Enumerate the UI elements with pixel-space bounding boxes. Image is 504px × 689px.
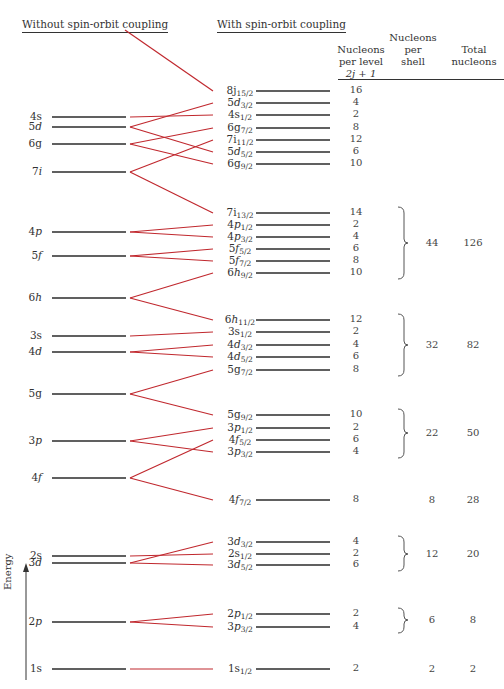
level-label-1s: 1s xyxy=(12,662,42,674)
connector-4f-7-2 xyxy=(130,478,213,500)
shell-brace xyxy=(398,409,408,458)
total-nucleons: 50 xyxy=(458,427,488,439)
per-level-count: 8 xyxy=(344,493,368,505)
per-shell-count: 44 xyxy=(421,237,443,249)
level-label-5f: 5f xyxy=(12,249,42,261)
total-nucleons: 2 xyxy=(458,663,488,675)
per-level-count: 4 xyxy=(344,445,368,457)
per-level-count: 8 xyxy=(344,254,368,266)
per-level-count: 2 xyxy=(344,325,368,337)
connector-4p-3-2 xyxy=(130,232,213,237)
per-shell-count: 12 xyxy=(421,548,443,560)
split-level-label-6h-9-2: 6h9/2 xyxy=(210,266,270,282)
total-nucleons: 20 xyxy=(458,548,488,560)
per-level-count: 10 xyxy=(344,157,368,169)
level-label-5d: 5d xyxy=(12,120,42,132)
per-level-count: 6 xyxy=(344,433,368,445)
level-label-3d: 3d xyxy=(12,556,42,568)
level-label-6g: 6g xyxy=(12,137,42,149)
connector-4f-5-2 xyxy=(130,440,213,478)
connector-3p-3-2 xyxy=(130,441,213,452)
connector-4p-1-2 xyxy=(130,225,213,232)
total-nucleons: 8 xyxy=(458,614,488,626)
connector-7i-11-2 xyxy=(130,140,213,172)
per-level-count: 4 xyxy=(344,620,368,632)
per-level-count: 4 xyxy=(344,535,368,547)
per-level-count: 8 xyxy=(344,121,368,133)
split-level-label-3d-5-2: 3d5/2 xyxy=(210,558,270,574)
level-label-6h: 6h xyxy=(12,291,42,303)
per-level-count: 6 xyxy=(344,242,368,254)
connector-6g-9-2 xyxy=(130,144,213,164)
per-shell-count: 22 xyxy=(421,427,443,439)
connector-4d-5-2 xyxy=(130,352,213,357)
shell-brace xyxy=(398,314,408,376)
split-level-label-3p-3-2: 3p3/2 xyxy=(210,620,270,636)
connector-3p-3-2 xyxy=(130,622,213,627)
shell-brace xyxy=(398,608,408,633)
per-level-count: 10 xyxy=(344,408,368,420)
connector-6h-11-2 xyxy=(130,298,213,320)
per-level-count: 2 xyxy=(344,607,368,619)
per-level-count: 12 xyxy=(344,313,368,325)
per-shell-count: 8 xyxy=(421,494,443,506)
per-level-count: 4 xyxy=(344,230,368,242)
per-shell-count: 6 xyxy=(421,614,443,626)
level-label-4d: 4d xyxy=(12,345,42,357)
connector-2p-1-2 xyxy=(130,614,213,622)
per-level-count: 14 xyxy=(344,206,368,218)
connector-3p-1-2 xyxy=(130,428,213,441)
per-level-count: 2 xyxy=(344,662,368,674)
connector-5f-5-2 xyxy=(130,249,213,256)
per-level-count: 2 xyxy=(344,108,368,120)
per-shell-count: 2 xyxy=(421,663,443,675)
connector-5f-7-2 xyxy=(130,256,213,261)
total-nucleons: 82 xyxy=(458,339,488,351)
connector-2s-1-2 xyxy=(130,554,213,556)
per-shell-count: 32 xyxy=(421,339,443,351)
per-level-count: 8 xyxy=(344,363,368,375)
split-level-label-1s-1-2: 1s1/2 xyxy=(210,662,270,678)
per-level-count: 6 xyxy=(344,145,368,157)
per-level-count: 4 xyxy=(344,338,368,350)
split-level-label-3p-3-2: 3p3/2 xyxy=(210,445,270,461)
per-level-count: 6 xyxy=(344,350,368,362)
per-level-count: 10 xyxy=(344,266,368,278)
level-label-5g: 5g xyxy=(12,387,42,399)
per-level-count: 12 xyxy=(344,133,368,145)
level-label-7i: 7i xyxy=(12,165,42,177)
connector-6h-9-2 xyxy=(130,273,213,298)
shell-brace xyxy=(398,207,408,279)
per-level-count: 4 xyxy=(344,96,368,108)
level-label-3s: 3s xyxy=(12,329,42,341)
split-level-label-4f-7-2: 4f7/2 xyxy=(210,493,270,509)
per-level-count: 2 xyxy=(344,218,368,230)
per-level-count: 2 xyxy=(344,421,368,433)
connector-4d-3-2 xyxy=(130,345,213,352)
shell-brace xyxy=(398,536,408,571)
split-level-label-6g-9-2: 6g9/2 xyxy=(210,157,270,173)
connector-5g-9-2 xyxy=(130,394,213,415)
total-nucleons: 126 xyxy=(458,237,488,249)
total-nucleons: 28 xyxy=(458,494,488,506)
connector-8j-15-2 xyxy=(125,30,213,91)
connector-3s-1-2 xyxy=(130,332,213,336)
split-level-label-5g-7-2: 5g7/2 xyxy=(210,363,270,379)
connector-5g-7-2 xyxy=(130,370,213,394)
level-label-4p: 4p xyxy=(12,225,42,237)
level-label-4f: 4f xyxy=(12,471,42,483)
per-level-count: 16 xyxy=(344,84,368,96)
connector-7i-13-2 xyxy=(130,172,213,213)
connector-3d-5-2 xyxy=(130,563,213,565)
per-level-count: 6 xyxy=(344,558,368,570)
connector-3d-3-2 xyxy=(130,542,213,563)
level-label-3p: 3p xyxy=(12,434,42,446)
level-label-2p: 2p xyxy=(12,615,42,627)
